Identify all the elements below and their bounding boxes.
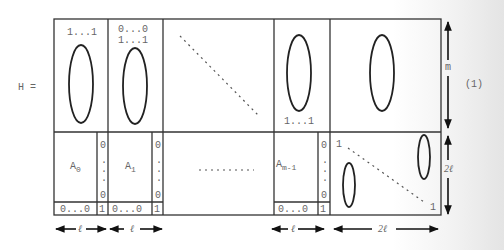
row1-left: 0...0 xyxy=(112,205,142,215)
dim-m: m xyxy=(445,63,451,73)
col1-dots: ... xyxy=(156,156,162,183)
row1-right: 1 xyxy=(154,205,160,215)
ellipse-last xyxy=(370,35,394,111)
ellipse-block0 xyxy=(69,45,93,123)
block1-label-line1: 0...0 xyxy=(118,25,148,35)
col0-bottom: 0 xyxy=(100,191,106,201)
col1-bottom: 0 xyxy=(155,191,161,201)
diagonal-dots-identity xyxy=(348,148,424,202)
block-m1-label: 1...1 xyxy=(284,117,314,127)
block0-label: 1...1 xyxy=(67,28,97,38)
dim-l-1: ℓ xyxy=(130,224,134,234)
row-m1-left: 0...0 xyxy=(278,205,308,215)
row0-left: 0...0 xyxy=(60,205,90,215)
dim-l-m1: ℓ xyxy=(291,224,295,234)
col-m1-dots: ... xyxy=(322,156,328,183)
equation-number: (1) xyxy=(465,80,483,90)
block-am1: Am-1 xyxy=(276,160,296,172)
dim-l-0: ℓ xyxy=(78,224,82,234)
col0-top: 0 xyxy=(100,141,106,151)
ellipse-block-m1 xyxy=(287,35,311,111)
row0-right: 1 xyxy=(99,205,105,215)
ellipse-identity-left xyxy=(343,163,355,207)
block1-label-line2: 1...1 xyxy=(118,36,148,46)
diagonal-dots-top xyxy=(180,36,260,117)
dim-2l-horizontal: 2ℓ xyxy=(378,224,387,234)
col-m1-top: 0 xyxy=(321,141,327,151)
identity-top-left: 1 xyxy=(336,140,342,150)
block-a0: A0 xyxy=(70,162,81,174)
ellipse-block1 xyxy=(123,48,147,124)
ellipse-identity-right xyxy=(418,135,430,179)
dim-2l-vertical: 2ℓ xyxy=(444,164,453,174)
matrix-outline xyxy=(54,19,441,215)
equation-lhs: H = xyxy=(18,83,36,93)
col0-dots: ... xyxy=(101,156,107,183)
col-m1-bottom: 0 xyxy=(321,191,327,201)
identity-bottom-right: 1 xyxy=(430,203,436,213)
col1-top: 0 xyxy=(155,141,161,151)
row-m1-right: 1 xyxy=(320,205,326,215)
block-a1: A1 xyxy=(125,162,136,174)
